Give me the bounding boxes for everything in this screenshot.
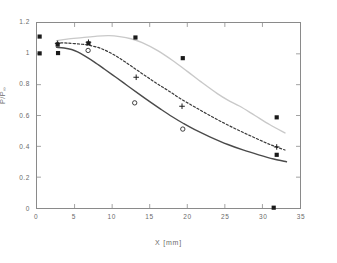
marker-circle bbox=[133, 101, 137, 105]
y-axis-tick-label: 0.6 bbox=[4, 112, 30, 119]
x-axis-tick-label: 35 bbox=[290, 213, 312, 220]
data-point-square bbox=[38, 34, 42, 38]
data-point-plus bbox=[133, 74, 139, 80]
data-point-square bbox=[86, 41, 90, 45]
marker-square bbox=[86, 41, 90, 45]
x-axis-tick-label: 25 bbox=[214, 213, 236, 220]
marker-square bbox=[38, 34, 42, 38]
data-point-plus bbox=[274, 144, 280, 150]
marker-square bbox=[272, 206, 276, 210]
data-point-square bbox=[133, 35, 137, 39]
y-axis-tick-label: 1.2 bbox=[4, 18, 30, 25]
y-axis-tick-label: 0.2 bbox=[4, 174, 30, 181]
marker-square bbox=[275, 153, 279, 157]
series-lower-curve bbox=[57, 47, 287, 161]
data-point-circle bbox=[86, 48, 90, 52]
marker-square bbox=[181, 56, 185, 60]
marker-circle bbox=[86, 48, 90, 52]
data-point-square bbox=[38, 51, 42, 55]
data-point-square bbox=[275, 115, 279, 119]
x-axis-title: X [mm] bbox=[0, 239, 337, 246]
marker-circle bbox=[181, 127, 185, 131]
x-axis-tick-label: 15 bbox=[139, 213, 161, 220]
data-point-square bbox=[272, 206, 276, 210]
data-point-circle bbox=[181, 127, 185, 131]
x-axis-tick-label: 20 bbox=[176, 213, 198, 220]
data-point-plus bbox=[179, 103, 185, 109]
marker-square bbox=[133, 35, 137, 39]
y-axis-title-subscript: ∞ bbox=[1, 87, 7, 91]
data-point-circle bbox=[133, 101, 137, 105]
plot-area bbox=[36, 22, 301, 209]
data-point-square bbox=[181, 56, 185, 60]
y-axis-tick-label: 1 bbox=[4, 49, 30, 56]
data-point-square bbox=[275, 153, 279, 157]
y-axis-title-text: P/P bbox=[0, 91, 7, 104]
x-axis-tick-label: 10 bbox=[101, 213, 123, 220]
x-axis-tick-label: 5 bbox=[63, 213, 85, 220]
marker-square bbox=[56, 51, 60, 55]
y-axis-tick-label: 0 bbox=[4, 205, 30, 212]
x-axis-tick-label: 30 bbox=[252, 213, 274, 220]
y-axis-tick-label: 0.4 bbox=[4, 143, 30, 150]
figure: P/P∞ X [mm] 0510152025303500.20.40.60.81… bbox=[0, 0, 337, 263]
series-upper-curve bbox=[57, 36, 285, 133]
data-point-square bbox=[56, 51, 60, 55]
marker-square bbox=[275, 115, 279, 119]
marker-square bbox=[38, 51, 42, 55]
x-axis-tick-label: 0 bbox=[25, 213, 47, 220]
y-axis-tick-label: 0.8 bbox=[4, 80, 30, 87]
y-axis-title: P/P∞ bbox=[0, 87, 7, 104]
plot-canvas bbox=[37, 23, 300, 208]
